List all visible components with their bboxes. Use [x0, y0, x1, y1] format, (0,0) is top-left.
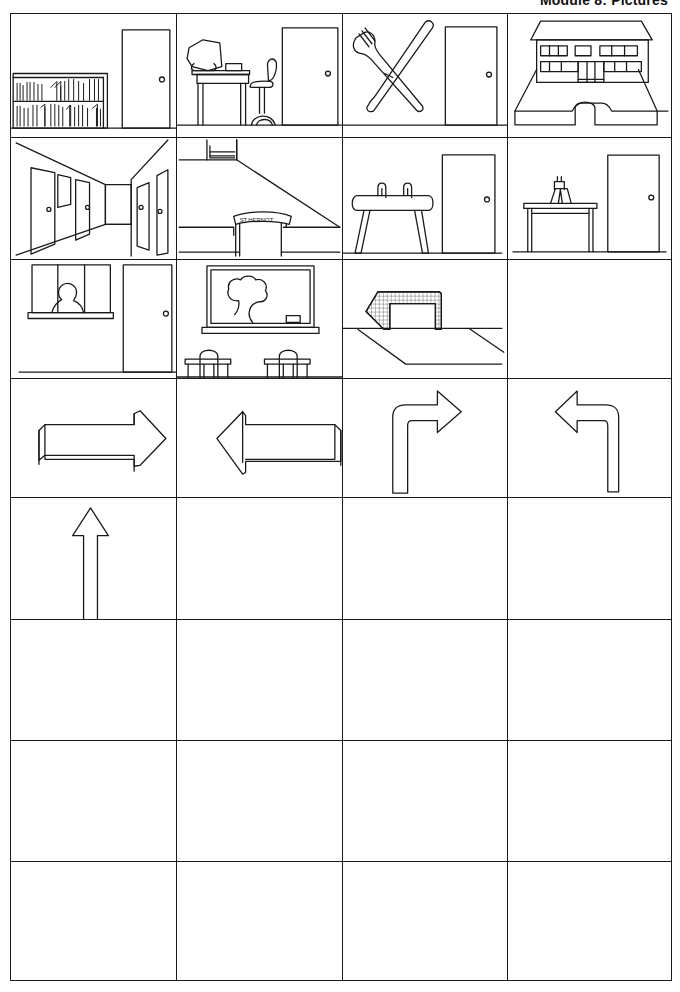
card-empty-r7c2[interactable] [177, 741, 343, 862]
reception-window-with-door-icon [11, 260, 176, 378]
school-building-icon [508, 14, 671, 137]
card-empty-r8c4[interactable] [508, 862, 671, 980]
pommel-horse-with-door-icon [343, 138, 507, 259]
card-gym[interactable] [343, 138, 508, 260]
card-empty-r6c3[interactable] [343, 620, 508, 741]
arrow-left-icon [177, 379, 342, 497]
card-empty-r8c1[interactable] [11, 862, 177, 980]
card-empty-r6c1[interactable] [11, 620, 177, 741]
card-turn-left[interactable] [508, 379, 671, 498]
entrance-sign-text: ST.HERNOT [240, 217, 274, 223]
arrow-turn-right-icon [343, 379, 507, 497]
card-empty-r7c3[interactable] [343, 741, 508, 862]
card-empty-r5c2[interactable] [177, 498, 343, 620]
card-computer-room[interactable] [177, 14, 343, 138]
card-reception[interactable] [11, 260, 177, 379]
entrance-gate-icon: ST.HERNOT [177, 138, 342, 259]
card-empty-r7c4[interactable] [508, 741, 671, 862]
fork-and-knife-with-door-icon [343, 14, 507, 137]
card-school-entrance[interactable]: ST.HERNOT [177, 138, 343, 260]
blackboard-and-desks-icon [177, 260, 342, 378]
card-canteen[interactable] [343, 14, 508, 138]
card-science-lab[interactable] [508, 138, 671, 260]
card-sports-field[interactable] [343, 260, 508, 379]
card-empty-r5c3[interactable] [343, 498, 508, 620]
picture-card-grid: ST.HERNOT [10, 13, 672, 981]
card-corridor[interactable] [11, 138, 177, 260]
computer-desk-with-door-icon [177, 14, 342, 137]
card-empty-r8c3[interactable] [343, 862, 508, 980]
card-empty-r3c4[interactable] [508, 260, 671, 379]
page-header-title: Module 8: Pictures [540, 0, 668, 8]
card-empty-r6c2[interactable] [177, 620, 343, 741]
card-school-building[interactable] [508, 14, 671, 138]
card-turn-right[interactable] [343, 379, 508, 498]
card-library[interactable] [11, 14, 177, 138]
arrow-up-icon [11, 498, 176, 619]
card-go-left[interactable] [177, 379, 343, 498]
football-goal-icon [343, 260, 507, 378]
card-classroom[interactable] [177, 260, 343, 379]
card-go-straight[interactable] [11, 498, 177, 620]
card-go-right[interactable] [11, 379, 177, 498]
card-empty-r5c4[interactable] [508, 498, 671, 620]
arrow-right-icon [11, 379, 176, 497]
arrow-turn-left-icon [508, 379, 671, 497]
lab-table-with-door-icon [508, 138, 671, 259]
card-empty-r8c2[interactable] [177, 862, 343, 980]
card-empty-r7c1[interactable] [11, 741, 177, 862]
card-empty-r6c4[interactable] [508, 620, 671, 741]
bookshelf-with-door-icon [11, 14, 176, 137]
corridor-with-doors-icon [11, 138, 176, 259]
